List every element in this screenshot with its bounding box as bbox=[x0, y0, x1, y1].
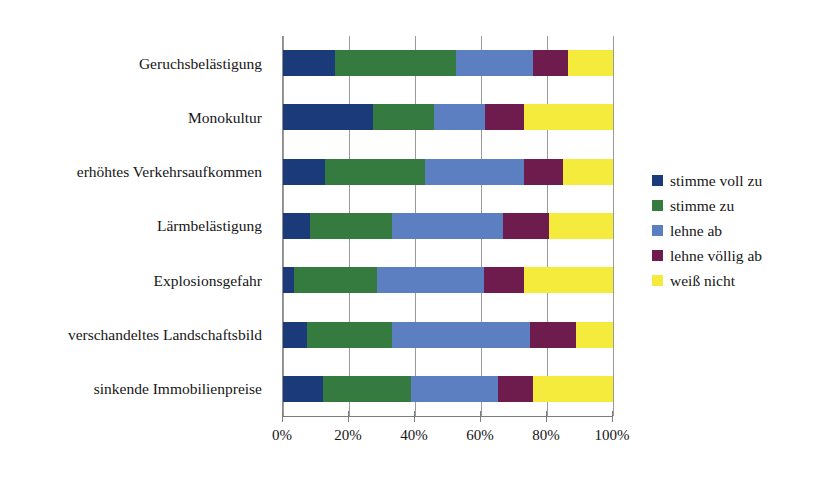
x-axis-line bbox=[282, 416, 613, 417]
bar-segment[interactable] bbox=[485, 104, 524, 130]
category-label: Monokultur bbox=[0, 109, 272, 126]
category-label: Geruchsbelästigung bbox=[0, 55, 272, 72]
stacked-bar-chart: Geruchsbelästigung Monokultur erhöhtes V… bbox=[0, 0, 825, 484]
bar-row[interactable] bbox=[283, 159, 613, 185]
bar-segment[interactable] bbox=[283, 213, 310, 239]
legend-swatch-icon bbox=[652, 250, 663, 261]
bar-row[interactable] bbox=[283, 213, 613, 239]
legend-label: weiß nicht bbox=[670, 272, 735, 290]
bar-segment[interactable] bbox=[563, 159, 613, 185]
bar-segment[interactable] bbox=[392, 213, 503, 239]
bar-segment[interactable] bbox=[568, 50, 613, 76]
bar-row[interactable] bbox=[283, 267, 613, 293]
legend-item[interactable]: lehne ab bbox=[652, 218, 822, 243]
bar-segment[interactable] bbox=[335, 50, 456, 76]
legend-swatch-icon bbox=[652, 225, 663, 236]
category-label: Explosionsgefahr bbox=[0, 272, 272, 289]
bar-segment[interactable] bbox=[549, 213, 613, 239]
x-axis-tick-label: 0% bbox=[272, 427, 292, 444]
bar-segment[interactable] bbox=[456, 50, 533, 76]
bar-segment[interactable] bbox=[498, 376, 533, 402]
legend: stimme voll zustimme zulehne ablehne völ… bbox=[652, 168, 822, 293]
legend-item[interactable]: weiß nicht bbox=[652, 268, 822, 293]
category-label: sinkende Immobilienpreise bbox=[0, 380, 272, 397]
legend-swatch-icon bbox=[652, 175, 663, 186]
bar-row[interactable] bbox=[283, 322, 613, 348]
plot-area bbox=[282, 36, 613, 416]
bar-segment[interactable] bbox=[503, 213, 549, 239]
bar-segment[interactable] bbox=[283, 322, 307, 348]
bar-segment[interactable] bbox=[411, 376, 498, 402]
legend-label: stimme zu bbox=[670, 197, 734, 215]
bar-segment[interactable] bbox=[307, 322, 392, 348]
legend-label: lehne ab bbox=[670, 222, 722, 240]
bar-segment[interactable] bbox=[283, 104, 373, 130]
bar-segment[interactable] bbox=[484, 267, 524, 293]
bar-segment[interactable] bbox=[576, 322, 613, 348]
bar-segment[interactable] bbox=[524, 104, 613, 130]
legend-label: stimme voll zu bbox=[670, 172, 762, 190]
bar-row[interactable] bbox=[283, 104, 613, 130]
legend-item[interactable]: lehne völlig ab bbox=[652, 243, 822, 268]
bar-segment[interactable] bbox=[325, 159, 425, 185]
x-axis-tick-label: 60% bbox=[466, 427, 494, 444]
bar-segment[interactable] bbox=[283, 50, 335, 76]
bar-segment[interactable] bbox=[425, 159, 524, 185]
category-label: erhöhtes Verkehrsaufkommen bbox=[0, 163, 272, 180]
legend-swatch-icon bbox=[652, 200, 663, 211]
legend-label: lehne völlig ab bbox=[670, 247, 762, 265]
bar-segment[interactable] bbox=[434, 104, 485, 130]
gridline bbox=[613, 36, 614, 416]
bar-series-group bbox=[283, 36, 613, 416]
legend-swatch-icon bbox=[652, 275, 663, 286]
bar-segment[interactable] bbox=[533, 50, 568, 76]
x-axis-tick-label: 80% bbox=[532, 427, 560, 444]
bar-segment[interactable] bbox=[524, 267, 613, 293]
bar-segment[interactable] bbox=[373, 104, 433, 130]
bar-segment[interactable] bbox=[524, 159, 563, 185]
legend-item[interactable]: stimme voll zu bbox=[652, 168, 822, 193]
x-axis-tick-label: 100% bbox=[595, 427, 630, 444]
x-axis-tick-label: 20% bbox=[334, 427, 362, 444]
category-label: Lärmbelästigung bbox=[0, 217, 272, 234]
bar-segment[interactable] bbox=[283, 267, 294, 293]
bar-segment[interactable] bbox=[377, 267, 484, 293]
category-label: verschandeltes Landschaftsbild bbox=[0, 326, 272, 343]
bar-segment[interactable] bbox=[294, 267, 377, 293]
bar-segment[interactable] bbox=[283, 159, 325, 185]
x-axis-tick-label: 40% bbox=[400, 427, 428, 444]
bar-segment[interactable] bbox=[323, 376, 411, 402]
bar-row[interactable] bbox=[283, 50, 613, 76]
bar-segment[interactable] bbox=[310, 213, 392, 239]
bar-segment[interactable] bbox=[283, 376, 323, 402]
bar-segment[interactable] bbox=[392, 322, 530, 348]
bar-segment[interactable] bbox=[530, 322, 576, 348]
legend-item[interactable]: stimme zu bbox=[652, 193, 822, 218]
bar-segment[interactable] bbox=[533, 376, 613, 402]
category-axis-labels: Geruchsbelästigung Monokultur erhöhtes V… bbox=[0, 36, 272, 416]
bar-row[interactable] bbox=[283, 376, 613, 402]
